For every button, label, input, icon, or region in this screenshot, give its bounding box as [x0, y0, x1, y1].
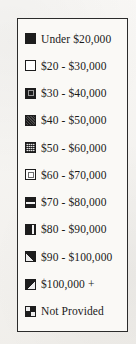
swatch-pattern-overlay: [26, 252, 35, 261]
swatch-pattern-overlay: [28, 90, 34, 96]
swatch-70-80k: [25, 197, 36, 208]
legend-item[interactable]: $60 - $70,000: [18, 162, 127, 188]
swatch-20-30k: [25, 60, 36, 71]
swatch-100k-plus: [25, 279, 36, 290]
legend-item[interactable]: $100,000 +: [18, 271, 127, 297]
swatch-50-60k: [25, 142, 36, 153]
legend-panel: Under $20,000$20 - $30,000$30 - $40,000$…: [0, 0, 136, 344]
legend-item-label: $70 - $80,000: [41, 196, 107, 208]
legend-item-label: $60 - $70,000: [41, 169, 107, 181]
swatch-60-70k: [25, 169, 36, 180]
legend-item-label: $40 - $50,000: [41, 114, 107, 126]
swatch-pattern-overlay: [26, 307, 35, 316]
legend-item[interactable]: $40 - $50,000: [18, 107, 127, 133]
swatch-80-90k: [25, 224, 36, 235]
legend-item[interactable]: $30 - $40,000: [18, 80, 127, 106]
legend-item-label: $20 - $30,000: [41, 60, 107, 72]
legend-item-label: Under $20,000: [41, 33, 111, 45]
swatch-pattern-overlay: [32, 225, 35, 234]
legend-item[interactable]: $70 - $80,000: [18, 189, 127, 215]
swatch-pattern-overlay: [26, 280, 35, 289]
legend-box: Under $20,000$20 - $30,000$30 - $40,000$…: [17, 18, 128, 332]
legend-item[interactable]: Under $20,000: [18, 26, 127, 52]
legend-item-label: $100,000 +: [41, 278, 95, 290]
swatch-not-provided: [25, 306, 36, 317]
legend-item-label: $80 - $90,000: [41, 223, 107, 235]
legend-item-label: $50 - $60,000: [41, 142, 107, 154]
legend-item-label: Not Provided: [41, 305, 104, 317]
swatch-30-40k: [25, 88, 36, 99]
swatch-90-100k: [25, 251, 36, 262]
swatch-under-20000: [25, 33, 36, 44]
legend-item[interactable]: $90 - $100,000: [18, 244, 127, 270]
swatch-pattern-overlay: [26, 202, 35, 205]
legend-rows: Under $20,000$20 - $30,000$30 - $40,000$…: [18, 25, 127, 325]
legend-item[interactable]: $80 - $90,000: [18, 216, 127, 242]
swatch-pattern-overlay: [28, 172, 34, 178]
legend-item[interactable]: $20 - $30,000: [18, 53, 127, 79]
legend-item-label: $30 - $40,000: [41, 87, 107, 99]
swatch-40-50k: [25, 115, 36, 126]
legend-item-label: $90 - $100,000: [41, 251, 112, 263]
legend-item[interactable]: Not Provided: [18, 298, 127, 324]
legend-item[interactable]: $50 - $60,000: [18, 135, 127, 161]
